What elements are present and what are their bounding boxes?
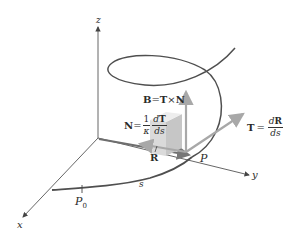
dr-den: ds xyxy=(270,128,280,138)
tangent-equation: T= dR ds xyxy=(247,117,284,138)
arc-length-s-label: s xyxy=(139,180,144,189)
t-equals: = xyxy=(256,123,264,133)
dt-den: ds xyxy=(154,126,164,136)
b-equals: = xyxy=(151,94,159,105)
y-axis-label: y xyxy=(252,170,258,180)
p0-subscript: 0 xyxy=(82,202,86,210)
one-over-kappa: 1 κ xyxy=(143,115,151,136)
binormal-equation: B=T×N xyxy=(143,95,185,105)
point-p0-label: P0 xyxy=(75,196,87,210)
dr-ds: dR ds xyxy=(268,117,283,138)
normal-equation: N= 1 κ dT ds xyxy=(124,115,168,136)
dt-ds: dT ds xyxy=(152,115,166,136)
tangent-vector-t xyxy=(186,114,243,152)
z-axis-label: z xyxy=(96,16,101,25)
n-equals: = xyxy=(133,121,141,131)
vector-r-label: R xyxy=(150,153,158,163)
dr-num: dR xyxy=(268,117,283,128)
helix-curve-lower xyxy=(52,157,192,190)
point-p-label: P xyxy=(200,153,207,164)
kappa-den: κ xyxy=(143,126,149,136)
b-n-symbol: N xyxy=(176,94,185,105)
cross-symbol: × xyxy=(167,94,175,105)
dt-num: dT xyxy=(152,115,166,126)
t-symbol: T xyxy=(247,123,254,133)
n-symbol: N xyxy=(124,121,133,131)
kappa-num: 1 xyxy=(143,115,151,126)
x-axis-label: x xyxy=(17,220,23,230)
